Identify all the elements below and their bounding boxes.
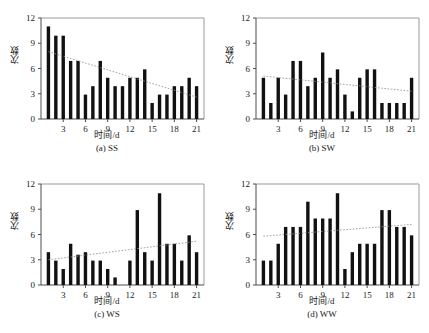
- bar-c-2: [54, 261, 57, 285]
- bar-a-3: [62, 36, 65, 119]
- y-tick-label-b-2: 6: [246, 64, 251, 74]
- y-tick-label-a-1: 3: [31, 89, 36, 99]
- bar-a-21: [195, 86, 198, 119]
- bar-b-17: [380, 103, 383, 119]
- bar-d-1: [262, 261, 265, 285]
- bar-d-5: [291, 227, 294, 285]
- y-tick-label-d-0: 0: [246, 280, 251, 290]
- plot-area-d: 03691236912151821: [215, 166, 429, 332]
- bar-c-6: [84, 252, 87, 285]
- bar-d-6: [299, 227, 302, 285]
- y-tick-label-b-0: 0: [246, 114, 251, 124]
- y-tick-label-c-1: 3: [31, 255, 36, 265]
- panel-caption-a: (a) SS: [0, 143, 214, 153]
- y-axis-label-d: 次数: [224, 212, 238, 230]
- bar-b-8: [314, 78, 317, 119]
- bar-a-6: [84, 95, 87, 119]
- bar-c-17: [165, 244, 168, 285]
- bar-b-5: [291, 61, 294, 119]
- bar-d-18: [388, 210, 391, 285]
- bar-c-18: [173, 244, 176, 285]
- bar-a-12: [128, 78, 131, 119]
- bar-d-21: [410, 235, 413, 285]
- bar-b-6: [299, 61, 302, 119]
- y-axis-label-c: 次数: [9, 212, 23, 230]
- bar-a-19: [180, 86, 183, 119]
- bar-b-21: [410, 78, 413, 119]
- y-tick-label-d-2: 6: [246, 230, 251, 240]
- bar-b-1: [262, 78, 265, 119]
- bar-b-10: [328, 78, 331, 119]
- bar-d-20: [402, 227, 405, 285]
- panel-caption-b: (b) SW: [215, 143, 429, 153]
- bar-c-1: [47, 252, 50, 285]
- y-tick-label-d-1: 3: [246, 255, 251, 265]
- chart-panel-a: 03691236912151821 次数 时间/d (a) SS: [0, 0, 214, 166]
- bar-d-16: [373, 244, 376, 285]
- bar-b-15: [365, 69, 368, 119]
- bar-d-10: [328, 219, 331, 285]
- y-tick-label-d-4: 12: [241, 179, 250, 189]
- x-axis-label-a: 时间/d: [0, 128, 214, 141]
- bar-d-9: [321, 219, 324, 285]
- y-tick-label-c-3: 9: [31, 204, 36, 214]
- y-tick-label-a-3: 9: [31, 38, 36, 48]
- bar-c-20: [187, 235, 190, 285]
- bar-a-20: [187, 78, 190, 119]
- bar-c-3: [62, 269, 65, 285]
- y-tick-label-a-0: 0: [31, 114, 36, 124]
- bar-a-16: [158, 95, 161, 119]
- x-axis-label-c: 时间/d: [0, 294, 214, 307]
- x-axis-label-d: 时间/d: [215, 294, 429, 307]
- figure-four-panel-bar-charts: 03691236912151821 次数 时间/d (a) SS 0369123…: [0, 0, 429, 333]
- y-tick-label-a-4: 12: [26, 13, 35, 23]
- bar-a-17: [165, 95, 168, 119]
- bar-c-19: [180, 261, 183, 285]
- y-tick-label-d-3: 9: [246, 204, 251, 214]
- chart-panel-c: 03691236912151821 次数 时间/d (c) WS: [0, 166, 214, 332]
- bar-d-19: [395, 227, 398, 285]
- bar-a-1: [47, 26, 50, 119]
- bar-b-19: [395, 103, 398, 119]
- bar-b-20: [402, 103, 405, 119]
- bar-b-18: [388, 103, 391, 119]
- y-tick-label-c-0: 0: [31, 280, 36, 290]
- bar-b-2: [269, 103, 272, 119]
- bar-d-14: [358, 244, 361, 285]
- y-tick-label-b-4: 12: [241, 13, 250, 23]
- bar-d-2: [269, 261, 272, 285]
- bar-b-3: [277, 78, 280, 119]
- bar-a-14: [143, 69, 146, 119]
- chart-panel-b: 03691236912151821 次数 时间/d (b) SW: [215, 0, 429, 166]
- bar-d-17: [380, 210, 383, 285]
- bar-a-15: [150, 103, 153, 119]
- panel-caption-d: (d) WW: [215, 309, 429, 319]
- plot-area-c: 03691236912151821: [0, 166, 214, 332]
- bar-c-4: [69, 244, 72, 285]
- plot-frame-c: [41, 184, 204, 285]
- bar-c-14: [143, 252, 146, 285]
- bar-c-16: [158, 193, 161, 285]
- plot-area-a: 03691236912151821: [0, 0, 214, 166]
- y-tick-label-c-2: 6: [31, 230, 36, 240]
- bar-a-4: [69, 61, 72, 119]
- bar-a-10: [113, 86, 116, 119]
- bar-a-18: [173, 86, 176, 119]
- bar-d-8: [314, 219, 317, 285]
- bar-a-9: [106, 78, 109, 119]
- y-axis-label-b: 次数: [224, 46, 238, 64]
- bar-b-11: [336, 69, 339, 119]
- plot-axes-c: [41, 184, 204, 285]
- bar-a-11: [121, 86, 124, 119]
- bar-b-9: [321, 53, 324, 119]
- bar-c-7: [91, 261, 94, 285]
- y-tick-label-b-3: 9: [246, 38, 251, 48]
- bar-b-14: [358, 78, 361, 119]
- bar-d-3: [277, 244, 280, 285]
- bar-b-7: [306, 86, 309, 119]
- bar-d-4: [284, 227, 287, 285]
- y-tick-label-c-4: 12: [26, 179, 35, 189]
- bar-d-7: [306, 202, 309, 285]
- y-tick-label-b-1: 3: [246, 89, 251, 99]
- bar-d-15: [365, 244, 368, 285]
